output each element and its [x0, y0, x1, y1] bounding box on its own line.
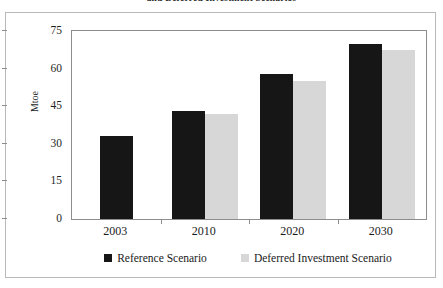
y-tick-label: 0 — [7, 212, 71, 224]
x-tick-mark — [338, 219, 339, 224]
y-tick-mark — [2, 105, 7, 106]
y-tick-label: 30 — [7, 137, 71, 149]
y-tick-mark — [2, 143, 7, 144]
bar-2010-deferred — [205, 114, 238, 219]
bar-2003-reference — [100, 136, 133, 219]
bar-2020-reference — [260, 74, 293, 219]
legend-label: Deferred Investment Scenario — [254, 252, 392, 264]
chart-legend: Reference ScenarioDeferred Investment Sc… — [71, 252, 425, 264]
plot-area — [71, 30, 427, 220]
x-tick-mark — [161, 219, 162, 224]
legend-label: Reference Scenario — [117, 252, 207, 264]
y-tick-label: 45 — [7, 99, 71, 111]
deferred-swatch — [241, 254, 249, 262]
x-tick-mark — [249, 219, 250, 224]
x-tick-label: 2020 — [247, 224, 337, 239]
x-tick-label: 2030 — [336, 224, 426, 239]
y-tick-label: 15 — [7, 174, 71, 186]
x-tick-label: 2003 — [70, 224, 160, 239]
legend-item: Deferred Investment Scenario — [241, 252, 392, 264]
reference-swatch — [104, 254, 112, 262]
x-tick-label: 2010 — [159, 224, 249, 239]
bar-2010-reference — [172, 111, 205, 219]
bar-2030-deferred — [382, 50, 415, 219]
y-tick-mark — [2, 68, 7, 69]
bar-2030-reference — [349, 44, 382, 219]
y-tick-label: 60 — [7, 62, 71, 74]
chart-title: and Deferred Investment Scenarios — [0, 0, 443, 6]
bar-2020-deferred — [293, 81, 326, 219]
y-tick-label: 75 — [7, 24, 71, 36]
chart-figure: and Deferred Investment Scenarios Mtoe 0… — [0, 0, 443, 288]
y-tick-mark — [2, 30, 7, 31]
y-tick-mark — [2, 180, 7, 181]
y-tick-mark — [2, 218, 7, 219]
legend-item: Reference Scenario — [104, 252, 207, 264]
